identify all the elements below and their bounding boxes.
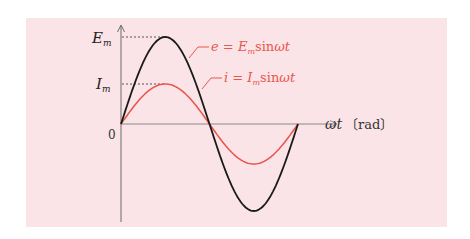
voltage-equation: e = Emsinωt <box>211 39 291 56</box>
origin-label: 0 <box>108 128 116 142</box>
sine-wave-chart: Em Im 0 ωt〔rad〕 e = Emsinωt i = Imsinωt <box>0 0 470 239</box>
x-axis-label: ωt〔rad〕 <box>325 116 393 132</box>
current-leader-line <box>202 78 222 89</box>
voltage-leader-line <box>189 47 209 58</box>
current-equation: i = Imsinωt <box>224 70 296 87</box>
em-label: Em <box>91 29 112 48</box>
im-label: Im <box>95 75 110 94</box>
